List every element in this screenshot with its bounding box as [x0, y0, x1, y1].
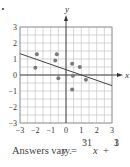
- x-axis-label: x: [124, 70, 129, 80]
- x-axis-arrow-icon: [117, 73, 123, 77]
- y-axis-label: y: [64, 4, 69, 14]
- eq-plus: +: [103, 145, 109, 156]
- x-tick-label: 2: [95, 126, 99, 135]
- y-axis-arrow-icon: [64, 15, 68, 21]
- x-tick-label: 0: [64, 126, 68, 135]
- x-tick-label: −2: [31, 126, 40, 135]
- data-point: [71, 74, 75, 78]
- y-tick-label: 0: [13, 71, 17, 80]
- scatter-plot: xy−3−2−10123−3−2−10123: [0, 0, 130, 135]
- y-tick-label: −2: [8, 103, 17, 112]
- x-tick-label: −3: [16, 126, 25, 135]
- data-point: [84, 78, 88, 82]
- data-point: [70, 62, 74, 66]
- data-point: [33, 66, 37, 70]
- data-point: [55, 52, 59, 56]
- answer-caption: Answers vary. y = ⁻1 3 x + 1 3: [12, 137, 130, 167]
- data-point: [70, 87, 74, 91]
- eq-equals: =: [71, 145, 77, 156]
- y-tick-label: 1: [13, 55, 17, 64]
- y-tick-label: 2: [13, 39, 17, 48]
- eq-x: x: [93, 145, 98, 156]
- data-point: [78, 65, 82, 69]
- eq-y: y: [62, 145, 67, 156]
- data-point: [35, 52, 39, 56]
- x-tick-label: −1: [46, 126, 55, 135]
- data-point: [53, 59, 57, 63]
- data-point: [56, 76, 60, 80]
- x-tick-label: 3: [110, 126, 114, 135]
- slope-denominator: 3: [82, 137, 87, 148]
- bullet-marker: [2, 8, 4, 10]
- y-tick-label: −3: [8, 119, 17, 128]
- y-tick-label: −1: [8, 87, 17, 96]
- y-tick-label: 3: [13, 23, 17, 32]
- intercept-denominator: 3: [114, 137, 119, 148]
- x-tick-label: 1: [79, 126, 83, 135]
